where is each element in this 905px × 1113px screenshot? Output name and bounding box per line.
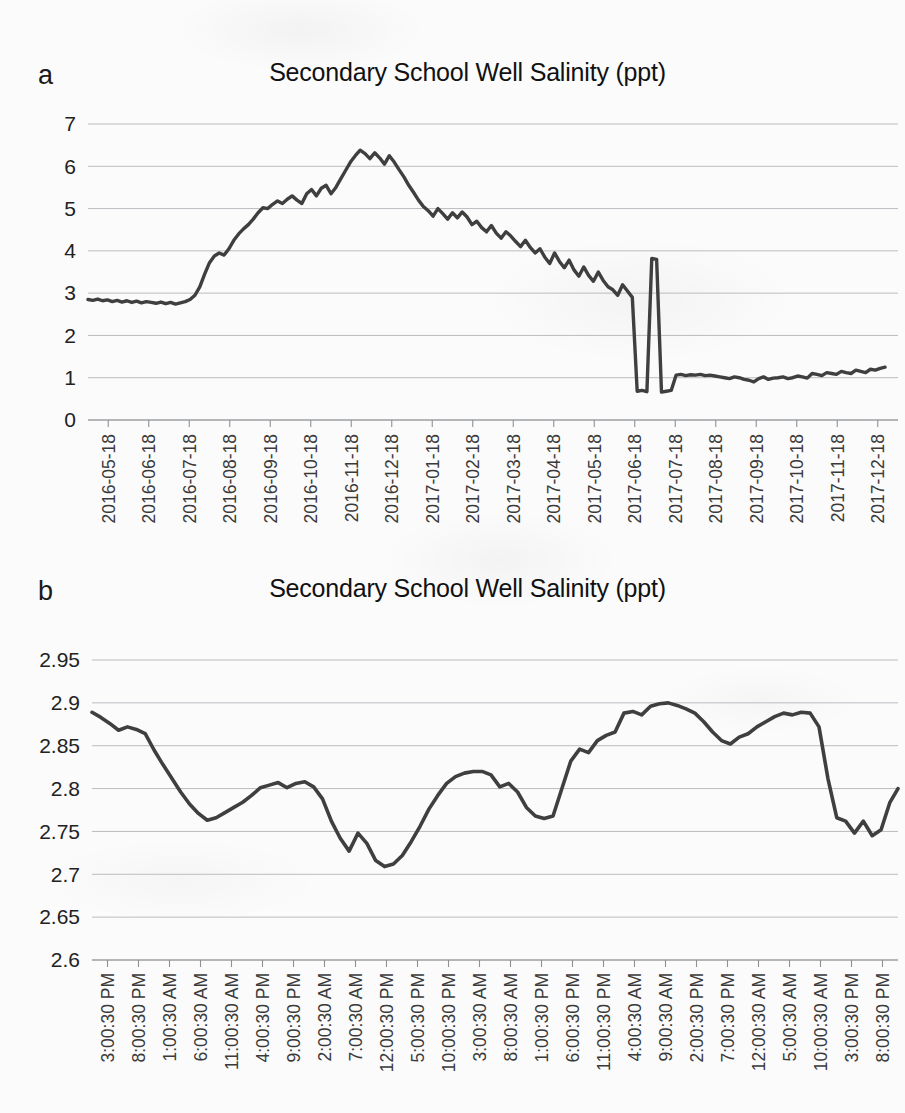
x-axis-tick-label: 4:00:30 AM	[625, 973, 645, 1062]
y-axis-tick-label: 2.75	[39, 820, 80, 843]
x-axis-tick-label: 3:00:30 PM	[842, 973, 862, 1063]
y-axis-tick-label: 2.6	[51, 948, 80, 971]
plot-area-a: 012345672016-05-182016-06-182016-07-1820…	[0, 52, 905, 557]
x-axis-tick-label: 2017-10-18	[787, 434, 807, 524]
x-axis-tick-label: 10:00:30 AM	[811, 973, 831, 1071]
y-axis-tick-label: 2.85	[39, 734, 80, 757]
y-axis-tick-label: 2.9	[51, 691, 80, 714]
x-axis-tick-label: 6:00:30 AM	[191, 973, 211, 1062]
x-axis-tick-label: 5:00:30 PM	[408, 973, 428, 1063]
x-axis-tick-label: 1:00:30 AM	[160, 973, 180, 1062]
x-axis-tick-label: 2016-07-18	[180, 434, 200, 524]
plot-area-b: 2.62.652.72.752.82.852.92.953:00:30 PM8:…	[0, 568, 905, 1113]
x-axis-tick-label: 2016-11-18	[342, 434, 362, 522]
x-axis-tick-label: 10:00:30 PM	[439, 973, 459, 1072]
x-axis-tick-label: 2016-09-18	[261, 434, 281, 524]
chart-svg-a: 012345672016-05-182016-06-182016-07-1820…	[0, 52, 905, 557]
chart-panel-a: a Secondary School Well Salinity (ppt) 0…	[0, 52, 905, 557]
x-axis-tick-label: 9:00:30 AM	[656, 973, 676, 1062]
x-axis-tick-label: 2016-08-18	[220, 434, 240, 524]
x-axis-tick-label: 2017-05-18	[585, 434, 605, 524]
data-series-line	[88, 150, 885, 392]
y-axis-tick-label: 6	[64, 155, 76, 178]
x-axis-tick-label: 4:00:30 PM	[253, 973, 273, 1063]
y-axis-tick-label: 2.7	[51, 863, 80, 886]
x-axis-tick-label: 2017-09-18	[747, 434, 767, 524]
y-axis-tick-label: 3	[64, 281, 76, 304]
x-axis-tick-label: 2017-11-18	[828, 434, 848, 522]
page-top-artifact	[150, 0, 450, 18]
x-axis-tick-label: 2017-08-18	[706, 434, 726, 524]
x-axis-tick-label: 7:00:30 AM	[346, 973, 366, 1062]
x-axis-tick-label: 3:00:30 PM	[98, 973, 118, 1063]
y-axis-tick-label: 2	[64, 324, 76, 347]
y-axis-tick-label: 5	[64, 197, 76, 220]
x-axis-tick-label: 1:00:30 PM	[532, 973, 552, 1063]
chart-svg-b: 2.62.652.72.752.82.852.92.953:00:30 PM8:…	[0, 568, 905, 1113]
x-axis-tick-label: 11:00:30 PM	[594, 973, 614, 1071]
x-axis-tick-label: 2017-04-18	[544, 434, 564, 524]
x-axis-tick-label: 2:00:30 AM	[315, 973, 335, 1062]
x-axis-tick-label: 9:00:30 PM	[284, 973, 304, 1063]
x-axis-tick-label: 8:00:30 PM	[129, 973, 149, 1063]
chart-panel-b: b Secondary School Well Salinity (ppt) 2…	[0, 568, 905, 1113]
x-axis-tick-label: 12:00:30 PM	[377, 973, 397, 1072]
y-axis-tick-label: 2.8	[51, 777, 80, 800]
x-axis-tick-label: 2016-10-18	[301, 434, 321, 524]
y-axis-tick-label: 2.65	[39, 905, 80, 928]
x-axis-tick-label: 8:00:30 PM	[873, 973, 893, 1063]
x-axis-tick-label: 2016-12-18	[382, 434, 402, 524]
y-axis-tick-label: 4	[64, 239, 76, 262]
y-axis-tick-label: 2.95	[39, 648, 80, 671]
y-axis-tick-label: 0	[64, 408, 76, 431]
x-axis-tick-label: 8:00:30 AM	[501, 973, 521, 1062]
x-axis-tick-label: 2017-03-18	[504, 434, 524, 524]
x-axis-tick-label: 2017-01-18	[423, 434, 443, 524]
x-axis-tick-label: 3:00:30 AM	[470, 973, 490, 1062]
x-axis-tick-label: 5:00:30 AM	[780, 973, 800, 1062]
x-axis-tick-label: 2017-02-18	[463, 434, 483, 524]
y-axis-tick-label: 1	[64, 366, 76, 389]
x-axis-tick-label: 7:00:30 PM	[718, 973, 738, 1063]
x-axis-tick-label: 2017-07-18	[666, 434, 686, 524]
x-axis-tick-label: 11:00:30 AM	[222, 973, 242, 1070]
x-axis-tick-label: 2016-05-18	[99, 434, 119, 524]
x-axis-tick-label: 2016-06-18	[139, 434, 159, 524]
x-axis-tick-label: 6:00:30 PM	[563, 973, 583, 1063]
x-axis-tick-label: 2017-06-18	[625, 434, 645, 524]
x-axis-tick-label: 12:00:30 AM	[749, 973, 769, 1071]
x-axis-tick-label: 2:00:30 PM	[687, 973, 707, 1063]
figure-page: a Secondary School Well Salinity (ppt) 0…	[0, 0, 905, 1113]
data-series-line	[92, 703, 898, 867]
x-axis-tick-label: 2017-12-18	[868, 434, 888, 524]
y-axis-tick-label: 7	[64, 112, 76, 135]
